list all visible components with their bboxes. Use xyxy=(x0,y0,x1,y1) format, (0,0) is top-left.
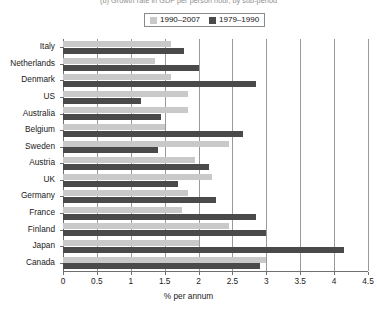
bar-1979-1990 xyxy=(63,114,161,120)
x-axis-tick xyxy=(334,272,335,275)
bar-rows: ItalyNetherlandsDenmarkUSAustraliaBelgiu… xyxy=(63,39,368,271)
y-axis-label: Canada xyxy=(0,258,55,267)
x-axis-tick-label: 0 xyxy=(48,276,78,286)
x-axis-tick-label: 2.5 xyxy=(217,276,247,286)
bar-row: Finland xyxy=(63,221,368,238)
plot-area: ItalyNetherlandsDenmarkUSAustraliaBelgiu… xyxy=(63,39,368,271)
x-axis-tick-label: 1.5 xyxy=(150,276,180,286)
y-axis-label: Sweden xyxy=(0,142,55,151)
bar-chart-figure: (b) Growth rate in GDP per person hour, … xyxy=(0,0,377,310)
bar-1979-1990 xyxy=(63,65,199,71)
x-axis-tick-label: 4.5 xyxy=(353,276,377,286)
bar-row: Austria xyxy=(63,155,368,172)
legend-item-1979-1990: 1979–1990 xyxy=(209,16,259,24)
x-axis-tick xyxy=(232,272,233,275)
x-axis-tick-label: 2 xyxy=(184,276,214,286)
legend-label-1990-2007: 1990–2007 xyxy=(160,16,200,24)
y-axis-label: Finland xyxy=(0,225,55,234)
bar-1990-2007 xyxy=(63,257,266,263)
legend-item-1990-2007: 1990–2007 xyxy=(150,16,200,24)
bar-1979-1990 xyxy=(63,247,344,253)
bar-row: Belgium xyxy=(63,122,368,139)
legend-swatch-light xyxy=(150,17,157,24)
y-axis-label: UK xyxy=(0,175,55,184)
bar-1979-1990 xyxy=(63,147,158,153)
y-axis-label: Netherlands xyxy=(0,59,55,68)
y-axis-label: US xyxy=(0,92,55,101)
bar-1990-2007 xyxy=(63,74,171,80)
bar-row: Australia xyxy=(63,105,368,122)
bar-row: Germany xyxy=(63,188,368,205)
y-axis-label: Austria xyxy=(0,158,55,167)
bar-row: France xyxy=(63,205,368,222)
gridline xyxy=(368,39,369,271)
x-axis-tick xyxy=(266,272,267,275)
y-axis-label: Japan xyxy=(0,241,55,250)
bar-row: Japan xyxy=(63,238,368,255)
x-axis-tick xyxy=(199,272,200,275)
bar-1979-1990 xyxy=(63,98,141,104)
bar-1990-2007 xyxy=(63,41,171,47)
bar-1979-1990 xyxy=(63,230,266,236)
bar-1990-2007 xyxy=(63,58,155,64)
x-axis-tick-label: 1 xyxy=(116,276,146,286)
x-axis-tick-label: 0.5 xyxy=(82,276,112,286)
x-axis-tick xyxy=(368,272,369,275)
y-axis-label: Denmark xyxy=(0,75,55,84)
bar-1979-1990 xyxy=(63,131,243,137)
x-axis-tick-label: 3.5 xyxy=(285,276,315,286)
bar-1990-2007 xyxy=(63,240,199,246)
y-axis-label: Italy xyxy=(0,42,55,51)
x-axis-line xyxy=(63,271,368,272)
bar-row: US xyxy=(63,89,368,106)
bar-1979-1990 xyxy=(63,164,209,170)
bar-1990-2007 xyxy=(63,107,188,113)
bar-1979-1990 xyxy=(63,214,256,220)
bar-1990-2007 xyxy=(63,91,188,97)
chart-title: (b) Growth rate in GDP per person hour, … xyxy=(0,0,377,5)
bar-row: Denmark xyxy=(63,72,368,89)
bar-1990-2007 xyxy=(63,174,212,180)
bar-1979-1990 xyxy=(63,48,184,54)
x-axis-tick-label: 3 xyxy=(251,276,281,286)
y-axis-label: France xyxy=(0,208,55,217)
bar-row: Italy xyxy=(63,39,368,56)
bar-1990-2007 xyxy=(63,157,195,163)
bar-1979-1990 xyxy=(63,197,216,203)
y-axis-label: Belgium xyxy=(0,125,55,134)
x-axis-tick xyxy=(300,272,301,275)
bar-1979-1990 xyxy=(63,181,178,187)
y-axis-label: Germany xyxy=(0,191,55,200)
x-axis-tick xyxy=(97,272,98,275)
x-axis-title: % per annum xyxy=(0,291,377,301)
legend-label-1979-1990: 1979–1990 xyxy=(219,16,259,24)
bar-1990-2007 xyxy=(63,124,165,130)
x-axis-tick xyxy=(131,272,132,275)
bar-1979-1990 xyxy=(63,81,256,87)
bar-1990-2007 xyxy=(63,223,229,229)
bar-1990-2007 xyxy=(63,207,182,213)
bar-1990-2007 xyxy=(63,141,229,147)
bar-1990-2007 xyxy=(63,190,188,196)
bar-row: UK xyxy=(63,172,368,189)
bar-1979-1990 xyxy=(63,263,260,269)
x-axis-tick xyxy=(63,272,64,275)
y-axis-label: Australia xyxy=(0,109,55,118)
legend-swatch-dark xyxy=(209,17,216,24)
bar-row: Canada xyxy=(63,254,368,271)
x-axis-tick xyxy=(165,272,166,275)
bar-row: Sweden xyxy=(63,138,368,155)
x-axis-tick-label: 4 xyxy=(319,276,349,286)
bar-row: Netherlands xyxy=(63,56,368,73)
chart-legend: 1990–2007 1979–1990 xyxy=(144,13,265,27)
